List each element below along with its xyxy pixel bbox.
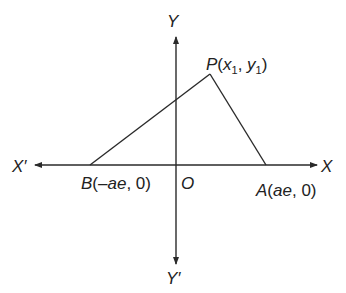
x-prime-axis-label: X′ (11, 157, 27, 176)
segment-bp (90, 74, 210, 165)
point-b-label: B(–ae, 0) (81, 174, 151, 193)
x-axis-label: X (320, 157, 333, 176)
origin-label: O (181, 174, 194, 193)
y-axis-label: Y (167, 12, 180, 31)
y-prime-axis-label: Y′ (166, 269, 181, 288)
coordinate-diagram: Y Y′ X′ X O P(x1, y1) B(–ae, 0) A(ae, 0) (0, 0, 346, 293)
point-a-label: A(ae, 0) (255, 181, 317, 200)
segment-pa (210, 74, 266, 165)
point-p-label: P(x1, y1) (206, 55, 267, 76)
